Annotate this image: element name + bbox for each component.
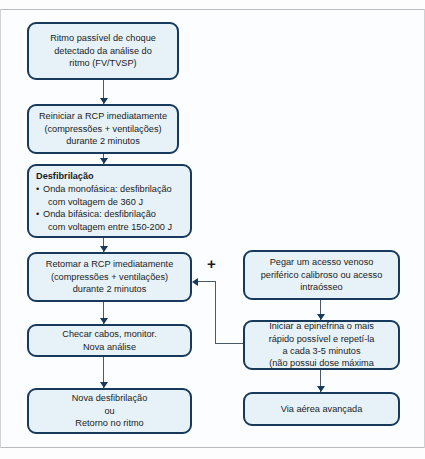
node-line: Nova análise xyxy=(83,341,136,353)
node-check-cables[interactable]: Checar cabos, monitor. Nova análise xyxy=(27,324,192,357)
node-line: rápido possível e repetí-la xyxy=(269,333,375,345)
node-bullet-continuation: com voltagem de 360 J xyxy=(36,196,143,208)
node-bullet: Onda monofásica: desfibrilação xyxy=(36,183,172,195)
node-line: (não possui dose máxima xyxy=(269,357,374,369)
node-line: Retorno no ritmo xyxy=(75,417,143,429)
connector-epi-elbow-horizontal-upper xyxy=(198,281,216,282)
node-line: Checar cabos, monitor. xyxy=(62,328,156,340)
node-line: ritmo (FV/TVSP) xyxy=(69,57,136,69)
plus-combiner-label: + xyxy=(207,256,216,271)
arrowhead-epi-to-resume xyxy=(192,278,198,286)
node-line: Nova desfibrilação xyxy=(72,392,148,404)
node-heading: Desfibrilação xyxy=(36,170,94,182)
node-line: detectado da análise do xyxy=(54,45,152,57)
node-resume-cpr[interactable]: Retomar a RCP imediatamente (compressões… xyxy=(27,252,192,302)
node-line: a cada 3-5 minutos xyxy=(282,345,360,357)
node-line: Iniciar a epinefrina o mais xyxy=(269,320,374,332)
node-line: (compressões + ventilações) xyxy=(44,123,161,135)
node-line: (compressões + ventilações) xyxy=(51,271,168,283)
node-line: Via aérea avançada xyxy=(281,403,363,415)
node-bullet-continuation: com voltagem entre 150-200 J xyxy=(36,221,172,233)
node-line: durante 2 minutos xyxy=(73,283,147,295)
node-bullet: Onda bifásica: desfibrilação xyxy=(36,208,156,220)
node-line: Reiniciar a RCP imediatamente xyxy=(39,110,167,122)
node-epinephrine[interactable]: Iniciar a epinefrina o mais rápido possí… xyxy=(243,320,400,370)
node-line: Ritmo passível de choque xyxy=(50,32,156,44)
node-restart-cpr[interactable]: Reiniciar a RCP imediatamente (compressõ… xyxy=(27,104,179,154)
node-line: intraósseo xyxy=(300,281,342,293)
connector-epi-elbow-vertical xyxy=(215,281,216,344)
node-rhythm-detect[interactable]: Ritmo passível de choque detectado da an… xyxy=(27,22,179,80)
node-line: durante 2 minutos xyxy=(66,135,140,147)
flowchart-canvas: + Ritmo passível de choque detectado da … xyxy=(0,0,425,459)
node-line: Pegar um acesso venoso xyxy=(270,256,374,268)
node-line: Retomar a RCP imediatamente xyxy=(46,258,174,270)
node-line: ou xyxy=(104,405,114,417)
connector-epi-elbow-horizontal-lower xyxy=(215,343,244,344)
node-defibrillation[interactable]: Desfibrilação Onda monofásica: desfibril… xyxy=(27,164,192,238)
node-venous-access[interactable]: Pegar um acesso venoso periférico calibr… xyxy=(243,250,400,300)
node-line: periférico calibroso ou acesso xyxy=(261,269,383,281)
node-advanced-airway[interactable]: Via aérea avançada xyxy=(243,392,400,426)
frame-bottom-rule xyxy=(0,447,425,448)
node-new-defibrillation[interactable]: Nova desfibrilação ou Retorno no ritmo xyxy=(27,388,192,434)
